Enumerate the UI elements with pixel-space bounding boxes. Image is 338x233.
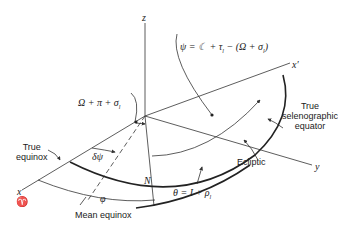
psi-formula: ψ = ☾ + τl − (Ω + σl): [180, 42, 268, 54]
mean-equinox-label: Mean equinox: [75, 211, 132, 220]
x-prime-axis-label: x′: [292, 60, 299, 70]
x-prime-axis: [145, 63, 290, 116]
delta-psi-label: δψ: [92, 152, 103, 162]
phi-arc: [38, 180, 155, 201]
true-equinox-label: True equinox: [16, 142, 48, 162]
true-selenographic-equator: [70, 75, 286, 187]
z-axis-lower: [145, 116, 154, 206]
phi-label: φ: [100, 194, 106, 204]
ecliptic-label: Ecliptic: [237, 158, 266, 167]
node-label: N: [144, 176, 151, 186]
true-selenographic-equator-label: True selenographic equator: [282, 101, 338, 131]
psi-arc: [152, 100, 260, 156]
theta-formula: θ = I + ρl: [173, 188, 211, 200]
omega-formula: Ω + π + σl: [78, 98, 120, 110]
aries-symbol: ♈: [16, 197, 28, 207]
y-axis-label: y: [315, 162, 319, 172]
z-axis-label: z: [142, 13, 146, 23]
omega-leader: [131, 93, 137, 122]
